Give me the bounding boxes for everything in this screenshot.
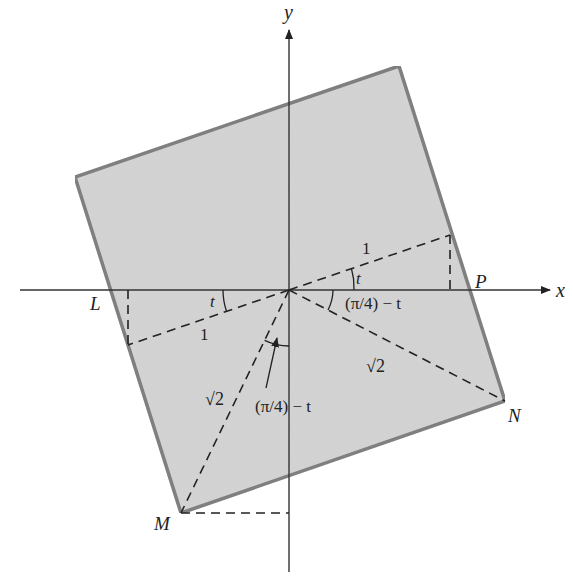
y-axis-label: y bbox=[282, 1, 293, 24]
square-rotation-diagram: y x L P N M 1 1 t t (π/4) − t (π/4) − t … bbox=[0, 0, 573, 584]
x-axis-label: x bbox=[555, 279, 565, 301]
unit-length-upper-label: 1 bbox=[362, 239, 371, 258]
unit-length-lower-label: 1 bbox=[200, 325, 209, 344]
point-L-label: L bbox=[89, 293, 101, 314]
sqrt2-left-label: √2 bbox=[205, 389, 224, 409]
point-N-label: N bbox=[507, 405, 522, 426]
sqrt2-right-label: √2 bbox=[366, 356, 385, 376]
point-M-label: M bbox=[153, 513, 171, 534]
angle-pi4-minus-t-right-label: (π/4) − t bbox=[345, 294, 401, 313]
point-P-label: P bbox=[474, 271, 487, 292]
angle-pi4-minus-t-lower-label: (π/4) − t bbox=[255, 397, 311, 416]
